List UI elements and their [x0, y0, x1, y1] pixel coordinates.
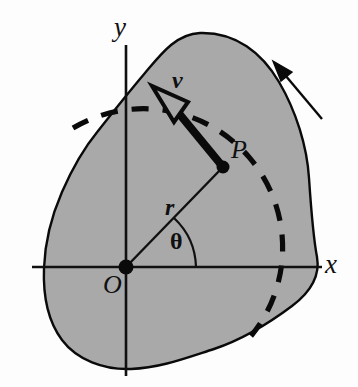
x-axis-label: x: [325, 251, 337, 278]
physics-rotation-diagram: y x O P v r θ: [0, 0, 358, 387]
theta-angle-label: θ: [170, 229, 183, 253]
point-p-dot: [217, 161, 230, 174]
radius-label: r: [165, 195, 174, 219]
origin-label: O: [103, 272, 122, 298]
diagram-canvas: [0, 0, 358, 387]
velocity-label: v: [172, 68, 183, 92]
y-axis-label: y: [114, 14, 126, 41]
point-p-label: P: [231, 137, 247, 163]
